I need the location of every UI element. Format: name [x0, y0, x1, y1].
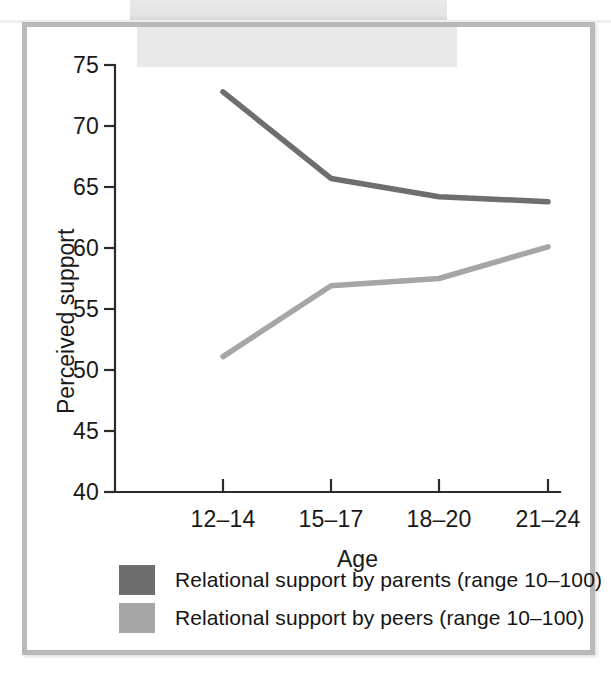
axes: [115, 65, 560, 492]
y-axis-title: Perceived support: [53, 229, 80, 414]
legend-label: Relational support by peers (range 10–10…: [175, 606, 584, 630]
legend-color-swatch: [119, 603, 155, 633]
y-tick-label: 45: [37, 418, 99, 445]
legend-label: Relational support by parents (range 10–…: [175, 568, 602, 592]
y-tick-label: 70: [37, 113, 99, 140]
figure-plate: 4045505560657075 12–1415–1718–2021–24 Ag…: [27, 27, 590, 650]
x-tick-label: 15–17: [299, 506, 364, 533]
legend-item[interactable]: Relational support by parents (range 10–…: [119, 562, 579, 598]
legend-color-swatch: [119, 565, 155, 595]
x-tick-label: 21–24: [516, 506, 581, 533]
x-tick-label: 12–14: [191, 506, 256, 533]
scan-artifact-band: [130, 0, 447, 22]
series-line-peers: [223, 247, 548, 357]
y-tick-label: 65: [37, 174, 99, 201]
chart-legend: Relational support by parents (range 10–…: [119, 562, 579, 638]
y-tick-label: 40: [37, 479, 99, 506]
legend-item[interactable]: Relational support by peers (range 10–10…: [119, 600, 579, 636]
figure-frame: 4045505560657075 12–1415–1718–2021–24 Ag…: [22, 22, 595, 655]
x-tick-label: 18–20: [407, 506, 472, 533]
axis-ticks: [104, 65, 548, 492]
series-lines: [223, 92, 548, 357]
y-tick-label: 75: [37, 52, 99, 79]
series-line-parents: [223, 92, 548, 202]
